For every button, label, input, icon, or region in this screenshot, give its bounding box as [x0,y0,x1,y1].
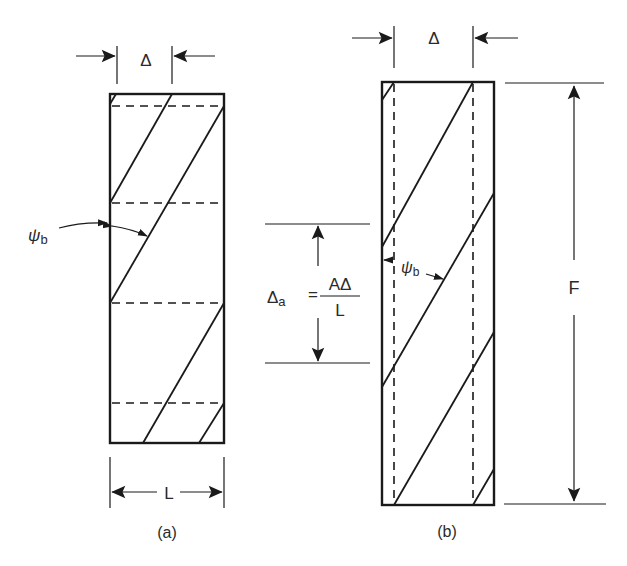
panel-b-caption: (b) [437,523,457,540]
panel-a-psi-label: ψb [28,226,48,247]
panel-b-axial-shift-dimension: Δa = AΔ L [265,224,370,363]
axial-shift-equation: Δa = AΔ L [267,275,360,320]
panel-a-specimen-rect [110,94,224,443]
equation-equals: = [308,285,318,304]
panel-a-angle-indicator: ψb [28,223,147,247]
panel-a-delta-dimension: Δ [76,46,215,84]
panel-b-height-dimension: F [504,83,606,504]
panel-a-caption: (a) [157,524,177,541]
panel-b-height-label: F [569,278,580,298]
panel-a-dashed-lines [112,106,222,403]
panel-a-delta-label: Δ [140,51,151,70]
equation-numerator: AΔ [329,275,352,294]
equation-denominator: L [335,301,344,320]
panel-a: Δ ψb L [28,46,224,541]
diagram-canvas: Δ ψb L [0,0,627,566]
panel-a-length-dimension: L [110,457,224,508]
panel-b-psi-label: ψb [401,259,420,279]
panel-b-delta-dimension: Δ [352,26,518,68]
panel-b-delta-label: Δ [428,29,439,48]
panel-b-angle-indicator: ψb [384,259,443,279]
panel-a-fiber-lines [110,94,224,443]
panel-b: Δ ψb Δa [265,26,606,540]
equation-lhs: Δa [267,288,286,309]
panel-b-fiber-lines [382,82,494,505]
panel-a-length-label: L [164,484,173,503]
panel-b-dashed-lines [394,84,473,503]
